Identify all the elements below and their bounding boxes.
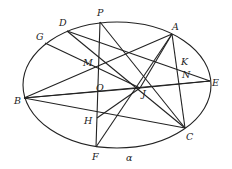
point-label-G: G — [36, 31, 44, 42]
point-label-H: H — [83, 115, 93, 126]
point-labels: PDGAKNEMOJBHCF — [13, 7, 219, 162]
point-label-J: J — [140, 88, 147, 99]
point-label-P: P — [96, 7, 104, 18]
geometry-diagram: PDGAKNEMOJBHCF α — [0, 0, 232, 169]
ellipse-label: α — [126, 152, 133, 163]
point-label-K: K — [180, 56, 189, 67]
point-label-D: D — [58, 17, 67, 28]
segment-BJ — [24, 88, 140, 98]
point-label-M: M — [82, 57, 93, 68]
point-label-A: A — [171, 21, 179, 32]
ellipse-alpha — [23, 22, 211, 148]
point-label-O: O — [96, 82, 104, 93]
segment-DC — [67, 31, 185, 128]
point-label-N: N — [181, 69, 191, 80]
segment-AJ — [140, 34, 172, 88]
point-label-E: E — [211, 77, 219, 88]
point-label-B: B — [13, 95, 21, 106]
point-label-F: F — [91, 151, 99, 162]
point-label-C: C — [186, 131, 194, 142]
line-segments — [24, 22, 210, 147]
